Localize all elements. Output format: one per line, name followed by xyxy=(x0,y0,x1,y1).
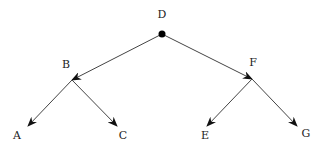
root-node-dot xyxy=(159,31,166,38)
node-label-f: F xyxy=(249,56,257,69)
node-labels: D B F A C E G xyxy=(12,8,310,142)
edge-b-to-a xyxy=(28,80,72,126)
node-label-g: G xyxy=(302,127,311,140)
node-label-a: A xyxy=(12,129,22,142)
edge-f-to-g xyxy=(252,79,297,126)
edge-d-to-f xyxy=(162,34,252,79)
node-label-e: E xyxy=(201,129,209,142)
node-label-c: C xyxy=(119,129,127,142)
edge-f-to-e xyxy=(207,79,252,126)
node-label-b: B xyxy=(62,58,70,71)
tree-diagram: D B F A C E G xyxy=(0,0,325,145)
node-label-d: D xyxy=(158,8,167,21)
edges xyxy=(28,34,297,126)
edge-d-to-b xyxy=(72,34,162,80)
edge-b-to-c xyxy=(72,80,117,126)
